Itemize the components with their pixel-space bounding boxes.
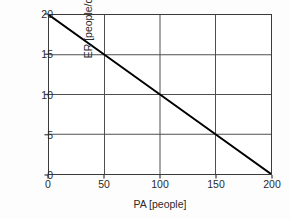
y-tick-label: 0 <box>47 170 53 181</box>
x-tick-label: 100 <box>151 179 169 190</box>
x-tick-label: 200 <box>263 179 281 190</box>
x-tick-label: 150 <box>207 179 225 190</box>
chart-figure: 050100150200 05101520 PA [people] ER [pe… <box>0 0 290 219</box>
y-axis-title: ER [people/day] <box>81 0 95 102</box>
y-tick-label: 20 <box>41 9 53 20</box>
y-tick-label: 5 <box>47 130 53 141</box>
x-axis-title: PA [people] <box>48 198 272 210</box>
y-tick-label: 15 <box>41 49 53 60</box>
x-tick-label: 50 <box>98 179 110 190</box>
y-tick-label: 10 <box>41 89 53 100</box>
